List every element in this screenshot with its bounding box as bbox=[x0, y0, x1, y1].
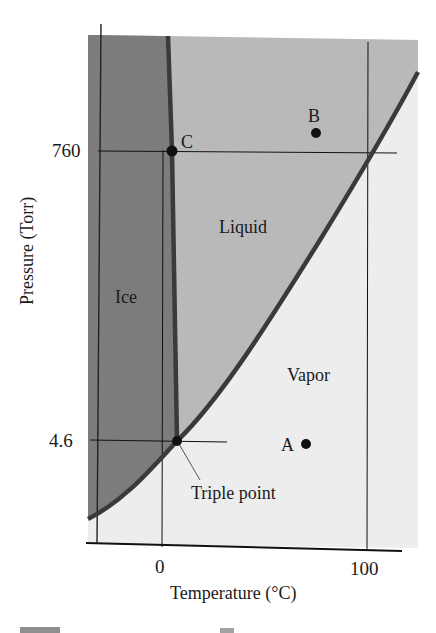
triple-point-label: Triple point bbox=[191, 484, 276, 502]
y-tick-4-6: 4.6 bbox=[49, 431, 73, 450]
region-label-vapor: Vapor bbox=[287, 366, 330, 384]
y-tick-760: 760 bbox=[52, 141, 81, 160]
region-label-liquid: Liquid bbox=[219, 218, 267, 236]
point-b-label: B bbox=[308, 107, 320, 125]
point-b-marker bbox=[311, 128, 321, 138]
point-c-label: C bbox=[181, 133, 193, 151]
point-c-marker bbox=[167, 146, 178, 157]
point-a-label: A bbox=[281, 436, 294, 454]
triple-point-marker bbox=[172, 436, 182, 446]
caption-fragment bbox=[20, 627, 60, 633]
phase-diagram-plot bbox=[0, 0, 436, 633]
caption-fragment bbox=[220, 628, 234, 633]
y-axis-title: Pressure (Torr) bbox=[17, 197, 38, 305]
x-tick-0: 0 bbox=[155, 557, 165, 576]
x-tick-100: 100 bbox=[350, 559, 379, 578]
region-label-ice: Ice bbox=[115, 288, 137, 306]
x-axis-title: Temperature (°C) bbox=[170, 584, 296, 602]
point-a-marker bbox=[301, 439, 311, 449]
